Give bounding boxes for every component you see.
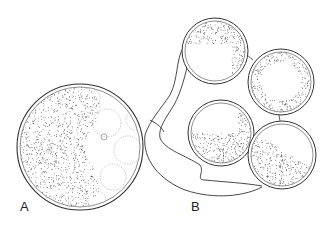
sphere-b-middle [188, 100, 254, 166]
label-a: A [20, 199, 29, 214]
sphere-b-right [248, 49, 314, 115]
sphere-b-top [182, 18, 248, 84]
sphere-a [17, 84, 146, 210]
label-b: B [191, 199, 200, 214]
sphere-b-bottom [248, 121, 316, 189]
figure: A B [0, 0, 333, 225]
illustration [0, 0, 333, 225]
